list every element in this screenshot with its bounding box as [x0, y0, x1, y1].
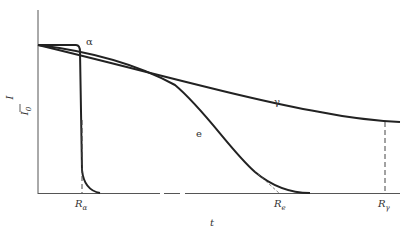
r-gamma-label: Rγ — [378, 198, 390, 212]
alpha-curve — [38, 45, 100, 193]
ylabel-numerator: I — [4, 96, 15, 100]
r-e-label: Re — [274, 198, 286, 212]
gamma-label: γ — [274, 96, 280, 107]
e-label: e — [196, 128, 202, 139]
electron-curve — [38, 45, 310, 193]
gamma-curve — [38, 45, 400, 122]
range-diagram — [0, 0, 412, 234]
r-alpha-label: Rα — [75, 198, 87, 212]
x-axis-label: t — [210, 217, 214, 228]
ylabel-denominator: I0 — [19, 107, 33, 115]
alpha-label: α — [86, 36, 93, 47]
